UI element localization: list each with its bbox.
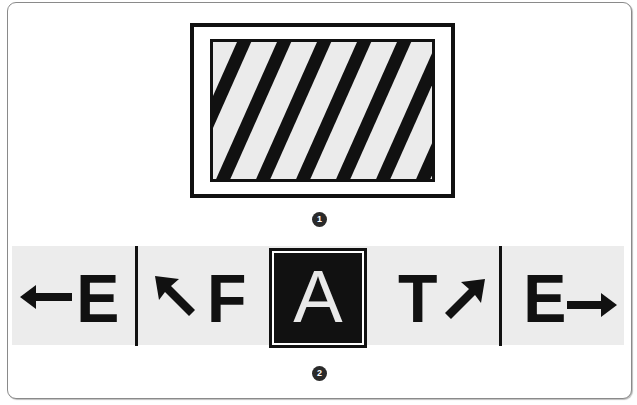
sign-divider xyxy=(499,246,502,346)
letter-e-right: E xyxy=(523,264,566,332)
arrow-left-icon xyxy=(20,283,72,311)
arrow-up-left-icon xyxy=(155,276,197,318)
figure-number-badge: 2 xyxy=(312,366,327,381)
figure-number-badge: 1 xyxy=(312,212,327,227)
letter-a: A xyxy=(274,253,362,343)
arrow-up-right-icon xyxy=(443,279,485,321)
highlighted-letter-box: A xyxy=(269,248,367,348)
hatched-panel xyxy=(210,39,435,182)
sign-divider xyxy=(135,246,138,346)
letter-t: T xyxy=(398,264,437,332)
diagonal-stripes-icon xyxy=(213,42,433,182)
letter-e-left: E xyxy=(76,264,119,332)
hatched-sign xyxy=(190,23,455,198)
letter-f: F xyxy=(207,264,246,332)
arrow-right-icon xyxy=(567,291,617,319)
